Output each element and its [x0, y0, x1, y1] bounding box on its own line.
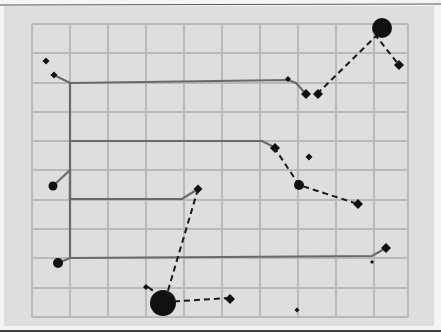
- schematic-diagram: [0, 0, 441, 333]
- circle-mid-node: [294, 180, 304, 190]
- circle-left-2-node: [53, 258, 63, 268]
- big-circle-bottom-node: [150, 290, 176, 316]
- circle-left-1-node: [49, 182, 58, 191]
- big-circle-top-node: [372, 18, 392, 38]
